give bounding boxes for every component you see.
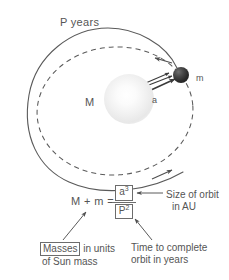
orbiting-planet [173, 67, 189, 83]
fraction-denominator: P2 [115, 204, 134, 220]
fraction-bar [112, 202, 136, 203]
equation-left-side: M + m = [71, 195, 114, 208]
fraction-numerator: a3 [115, 185, 132, 201]
numerator-annotation-line2: in AU [166, 201, 219, 213]
outer-orbit-arrow-bottom [152, 170, 172, 179]
denominator-leader-arrow [135, 219, 152, 240]
denominator-exponent: 2 [125, 203, 129, 210]
outer-orbit-arrow-top [155, 58, 172, 63]
orbit-diagram-svg [0, 0, 229, 280]
central-star [104, 74, 154, 124]
masses-annotation-line1-rest: in units [80, 243, 114, 254]
period-label: P years [60, 16, 99, 29]
numerator-annotation: Size of orbit in AU [166, 189, 219, 212]
masses-boxed-word: Masses [40, 242, 80, 256]
numerator-exponent: 3 [125, 185, 129, 192]
denominator-annotation-line2: orbit in years [131, 254, 207, 266]
central-mass-label: M [85, 96, 94, 109]
numerator-annotation-line1: Size of orbit [166, 189, 219, 200]
semimajor-axis-label: a [152, 95, 157, 105]
outer-orbit-path [27, 28, 183, 191]
kepler-third-law-figure: P years M m a M + m = a3 P2 Size of orbi… [0, 0, 229, 280]
masses-annotation: Masses in units of Sun mass [40, 242, 115, 268]
equation-fraction: a3 P2 [112, 185, 136, 219]
denominator-annotation: Time to complete orbit in years [131, 242, 207, 265]
orbiting-mass-label: m [196, 73, 204, 83]
masses-leader-arrow [63, 212, 86, 240]
denominator-annotation-line1: Time to complete [131, 242, 207, 253]
masses-annotation-line2: of Sun mass [40, 256, 115, 268]
